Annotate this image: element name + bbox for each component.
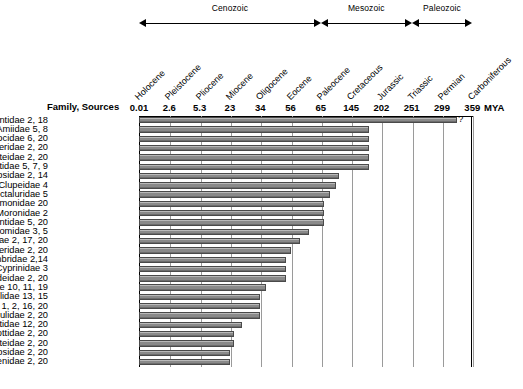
era-span-cenozoic: Cenozoic [139, 16, 321, 32]
range-bar [139, 350, 230, 356]
chart-row: Cottidae 2, 20 [0, 330, 523, 340]
epoch-label-permian: Permian [436, 71, 467, 102]
range-bar [139, 359, 230, 365]
chart-row: Polyodontidae 5, 7, 9 [0, 163, 523, 173]
arrow-right-icon [465, 19, 472, 27]
range-bar [139, 247, 291, 253]
chart-row: Percopsidae 2, 14 [0, 172, 523, 182]
axis-tick-65: 65 [306, 102, 336, 114]
range-bar [139, 229, 309, 235]
epoch-label-miocene: Miocene [224, 71, 255, 102]
axis-tick-34: 34 [245, 102, 275, 114]
range-bar [139, 201, 324, 207]
axis-tick-202: 202 [366, 102, 396, 114]
era-axis-line [418, 23, 467, 24]
range-bar [139, 191, 330, 197]
range-bar [139, 340, 234, 346]
chart-row: Catostomidae 3, 5 [0, 228, 523, 238]
chart-row: Poeciliidae 10, 11, 19 [0, 283, 523, 293]
range-bar [139, 126, 369, 132]
era-span-mesozoic: Mesozoic [321, 16, 412, 32]
chart-row: Fundulidae 2, 20 [0, 311, 523, 321]
range-bar [139, 117, 457, 123]
axis-tick-23: 23 [215, 102, 245, 114]
chart-row: Esocidae 6, 20 [0, 135, 523, 145]
range-bar [139, 238, 300, 244]
bar-rows: Petromyzontidae 2, 18?Amiidae 5, 8Esocid… [0, 116, 523, 367]
arrow-left-icon [321, 19, 328, 27]
arrow-left-icon [412, 19, 419, 27]
chart-row: Moronidae 2 [0, 209, 523, 219]
chart-row: Centrarchidae 2, 17, 20 [0, 237, 523, 247]
era-label: Mesozoic [321, 3, 412, 13]
epoch-label-oligocene: Oligocene [254, 66, 290, 102]
chart-row: Petromyzontidae 2, 18? [0, 116, 523, 126]
axis-tick-359: 359 [457, 102, 487, 114]
chart-row: Aphredoderidae 2, 20 [0, 246, 523, 256]
range-bar [139, 303, 260, 309]
chart-row: Percidae 1, 2, 16, 20 [0, 302, 523, 312]
range-bar [139, 312, 260, 318]
axis-tick-5.3: 5.3 [185, 102, 215, 114]
era-axis-line [327, 23, 406, 24]
epoch-label-layer: HolocenePleistocenePlioceneMioceneOligoc… [0, 40, 523, 102]
range-bar [139, 331, 234, 337]
chart-row: Hiodontidae 5, 20 [0, 218, 523, 228]
row-header-label: Family, Sources [47, 101, 119, 113]
epoch-label-jurassic: Jurassic [375, 72, 405, 102]
range-bar [139, 284, 266, 290]
chart-row: Amiidae 5, 8 [0, 125, 523, 135]
arrow-right-icon [314, 19, 321, 27]
chart-row: Atherinopsidae 2, 20 [0, 349, 523, 359]
range-bar [139, 219, 324, 225]
era-label: Paleozoic [412, 3, 473, 13]
range-bar [139, 136, 369, 142]
arrow-left-icon [139, 19, 146, 27]
era-band: CenozoicMesozoicPaleozoic [0, 0, 523, 42]
range-bar [139, 210, 324, 216]
chart-row: Acipenseridae 2, 20 [0, 144, 523, 154]
chart-row: Goodeidae 2, 20 [0, 274, 523, 284]
axis-tick-0.01: 0.01 [124, 102, 154, 114]
range-bar [139, 145, 369, 151]
range-bar [139, 182, 336, 188]
chart-row: Lepisosteidae 2, 20 [0, 153, 523, 163]
range-bar [139, 275, 286, 281]
epoch-label-carboniferous: Carboniferous [466, 55, 513, 102]
chart-row: Cichlidae 13, 15 [0, 293, 523, 303]
epoch-label-pliocene: Pliocene [194, 71, 225, 102]
chart-row: Cyprinodontidae 12, 20 [0, 321, 523, 331]
chart-row: Cyprinidae 3 [0, 265, 523, 275]
chart-row: Salmonidae 20 [0, 200, 523, 210]
chart-row: Ictaluridae 5 [0, 190, 523, 200]
axis-tick-2.6: 2.6 [154, 102, 184, 114]
axis-tick-299: 299 [427, 102, 457, 114]
chart-row: Clupeidae 4 [0, 181, 523, 191]
range-bar [139, 154, 369, 160]
axis-tick-56: 56 [276, 102, 306, 114]
era-label: Cenozoic [139, 3, 321, 13]
range-bar [139, 164, 369, 170]
axis-tick-251: 251 [397, 102, 427, 114]
range-bar [139, 257, 286, 263]
range-bar [139, 266, 286, 272]
era-axis-line [145, 23, 315, 24]
range-bar [139, 173, 339, 179]
chart-row: Gasterosteidae 2, 20 [0, 339, 523, 349]
family-label: Sciaenidae 2, 20 [0, 356, 48, 366]
era-span-paleozoic: Paleozoic [412, 16, 473, 32]
epoch-label-holocene: Holocene [133, 68, 167, 102]
chart-row: Sciaenidae 2, 20 [0, 358, 523, 368]
uncertainty-marker: ? [458, 114, 463, 125]
epoch-label-eocene: Eocene [284, 73, 313, 102]
range-bar [139, 294, 260, 300]
axis-tick-145: 145 [336, 102, 366, 114]
range-bar [139, 322, 242, 328]
chart-row: Umbridae 2,14 [0, 256, 523, 266]
epoch-label-triassic: Triassic [406, 73, 435, 102]
fossil-range-chart: CenozoicMesozoicPaleozoic HolocenePleist… [0, 0, 523, 389]
arrow-right-icon [405, 19, 412, 27]
